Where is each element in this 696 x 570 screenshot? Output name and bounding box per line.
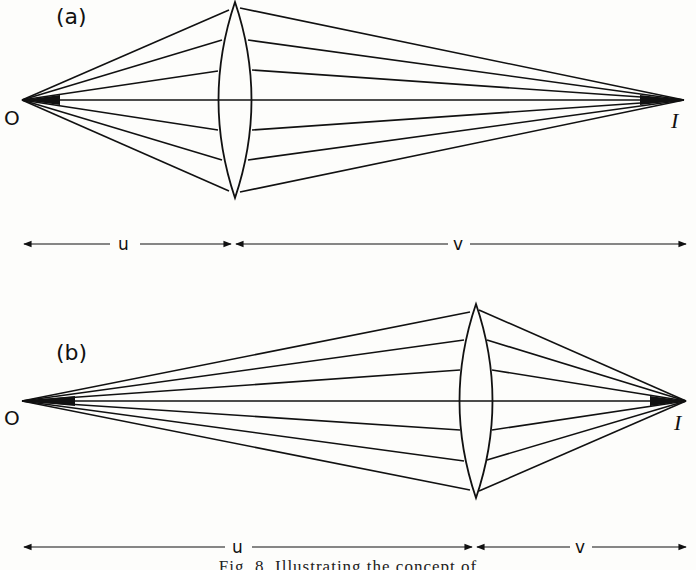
lens-ray-diagram: (a) O I bbox=[0, 0, 696, 570]
figure-caption: Fig. 8. Illustrating the concept of bbox=[0, 556, 696, 570]
panel-a-image-label: I bbox=[670, 108, 680, 133]
panel-a: (a) O I bbox=[4, 2, 686, 254]
panel-b-rays bbox=[22, 310, 686, 491]
panel-a-v-label: v bbox=[453, 234, 463, 254]
panel-b-object-label: O bbox=[4, 406, 20, 430]
panel-a-rays bbox=[22, 8, 684, 192]
panel-b-u-label: u bbox=[232, 537, 243, 557]
panel-b-image-label: I bbox=[673, 410, 683, 435]
panel-b-v-label: v bbox=[575, 537, 585, 557]
panel-b: (b) O I bbox=[4, 304, 686, 557]
panel-a-object-label: O bbox=[4, 106, 20, 130]
panel-a-u-label: u bbox=[118, 234, 129, 254]
panel-a-label: (a) bbox=[56, 4, 87, 29]
panel-b-label: (b) bbox=[56, 340, 87, 365]
